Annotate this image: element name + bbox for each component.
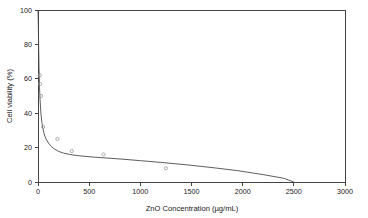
data-point-marker xyxy=(164,167,167,170)
y-tick-label: 80 xyxy=(24,40,32,49)
cell-viability-chart: 050010001500200025003000 020406080100 Zn… xyxy=(0,0,368,218)
y-tick-label: 0 xyxy=(28,178,32,187)
data-point-marker xyxy=(56,137,59,140)
x-tick-label: 1500 xyxy=(184,187,200,196)
y-axis-tick-labels: 020406080100 xyxy=(20,6,32,187)
y-axis-title: Cell viability (%) xyxy=(5,69,14,123)
x-tick-label: 1000 xyxy=(132,187,148,196)
y-tick-label: 60 xyxy=(24,74,32,83)
x-tick-label: 2000 xyxy=(235,187,251,196)
fitted-curve-line xyxy=(38,10,294,182)
chart-container: 050010001500200025003000 020406080100 Zn… xyxy=(0,0,368,218)
x-axis-tick-labels: 050010001500200025003000 xyxy=(36,187,353,196)
data-point-marker xyxy=(102,153,105,156)
x-axis-ticks xyxy=(38,182,345,186)
measured-data-points xyxy=(38,74,167,170)
y-tick-label: 20 xyxy=(24,143,32,152)
data-point-marker xyxy=(70,149,73,152)
data-series-group xyxy=(38,10,294,182)
x-tick-label: 3000 xyxy=(337,187,353,196)
x-axis-title: ZnO Concentration (µg/mL) xyxy=(146,204,239,213)
x-tick-label: 500 xyxy=(83,187,95,196)
data-point-marker xyxy=(38,74,41,77)
x-tick-label: 0 xyxy=(36,187,40,196)
y-axis-ticks xyxy=(35,10,39,182)
y-tick-label: 40 xyxy=(24,109,32,118)
x-tick-label: 2500 xyxy=(286,187,302,196)
y-tick-label: 100 xyxy=(20,6,32,15)
